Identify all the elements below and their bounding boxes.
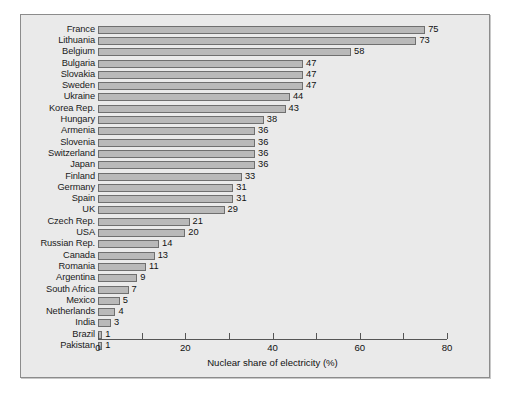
bar-row: Russian Rep.14	[21, 239, 489, 250]
bar	[98, 105, 286, 113]
bar-value-label: 44	[293, 93, 303, 102]
bar-value-label: 43	[289, 104, 299, 113]
category-label: Bulgaria	[62, 59, 95, 68]
bar-value-label: 5	[123, 296, 128, 305]
bar-value-label: 29	[228, 206, 238, 215]
x-tick-label: 40	[267, 342, 278, 353]
category-label: Mexico	[66, 296, 95, 305]
bar	[98, 150, 255, 158]
bar-value-label: 38	[267, 115, 277, 124]
bar-row: Slovakia47	[21, 69, 489, 80]
category-label: Czech Rep.	[47, 217, 95, 226]
bar-value-label: 47	[306, 59, 316, 68]
category-label: Finland	[65, 172, 95, 181]
x-tick-label: 80	[442, 342, 453, 353]
category-label: Armenia	[61, 127, 95, 136]
bar	[98, 93, 290, 101]
x-axis-line	[98, 339, 447, 340]
bar	[98, 240, 159, 248]
bar-row: Romania11	[21, 261, 489, 272]
category-label: Ukraine	[64, 93, 95, 102]
bar-value-label: 47	[306, 81, 316, 90]
x-tick-major	[185, 333, 186, 339]
bar-row: Germany31	[21, 182, 489, 193]
bar-value-label: 36	[258, 138, 268, 147]
bar	[98, 116, 264, 124]
bar	[98, 229, 185, 237]
bar	[98, 173, 242, 181]
bar-row: USA20	[21, 227, 489, 238]
category-label: UK	[82, 206, 95, 215]
bar	[98, 161, 255, 169]
bar	[98, 206, 225, 214]
category-label: Slovakia	[61, 70, 95, 79]
bar-row: Czech Rep.21	[21, 216, 489, 227]
bar-value-label: 13	[158, 251, 168, 260]
category-label: Japan	[70, 161, 95, 170]
bar	[98, 139, 255, 147]
x-tick-minor	[316, 333, 317, 339]
bar-row: Sweden47	[21, 81, 489, 92]
category-label: Russian Rep.	[40, 240, 95, 249]
bar	[98, 37, 416, 45]
bar	[98, 263, 146, 271]
x-tick-minor	[142, 333, 143, 339]
bar-row: Switzerland36	[21, 148, 489, 159]
bar-row: Mexico5	[21, 295, 489, 306]
x-tick-label: 60	[354, 342, 365, 353]
bar	[98, 297, 120, 305]
bar	[98, 274, 137, 282]
bar-value-label: 36	[258, 127, 268, 136]
bar	[98, 195, 233, 203]
bar-value-label: 7	[132, 285, 137, 294]
bar-value-label: 33	[245, 172, 255, 181]
bar	[98, 286, 129, 294]
category-label: Lithuania	[58, 36, 95, 45]
category-label: France	[67, 25, 95, 34]
bar-value-label: 14	[162, 240, 172, 249]
category-label: Pakistan	[60, 341, 95, 350]
bar-value-label: 73	[419, 36, 429, 45]
bar	[98, 218, 190, 226]
bar-value-label: 9	[140, 274, 145, 283]
bar-value-label: 47	[306, 70, 316, 79]
bar-row: Korea Rep.43	[21, 103, 489, 114]
x-tick-minor	[229, 333, 230, 339]
category-label: Canada	[63, 251, 95, 260]
category-label: USA	[76, 228, 95, 237]
x-tick-minor	[403, 333, 404, 339]
bar-row: Armenia36	[21, 126, 489, 137]
category-label: Switzerland	[48, 149, 95, 158]
bar-row: Pakistan1	[21, 340, 489, 351]
category-label: Argentina	[56, 274, 95, 283]
bar	[98, 26, 425, 34]
bar	[98, 127, 255, 135]
bar-row: Slovenia36	[21, 137, 489, 148]
category-label: Spain	[72, 194, 95, 203]
category-label: Netherlands	[46, 307, 95, 316]
x-tick-major	[273, 333, 274, 339]
category-label: Germany	[57, 183, 95, 192]
category-label: Hungary	[61, 115, 95, 124]
bar-value-label: 36	[258, 161, 268, 170]
bar-row: Belgium58	[21, 47, 489, 58]
bar-value-label: 20	[188, 228, 198, 237]
bar-row: Japan36	[21, 160, 489, 171]
category-label: Brazil	[72, 330, 95, 339]
bar-value-label: 1	[105, 330, 110, 339]
x-tick-major	[360, 333, 361, 339]
bar-row: Finland33	[21, 171, 489, 182]
category-label: Romania	[58, 262, 95, 271]
bar-chart-plot-area: France75Lithuania73Belgium58Bulgaria47Sl…	[21, 15, 489, 377]
category-label: Belgium	[62, 48, 95, 57]
bar-row: Bulgaria47	[21, 58, 489, 69]
bar-value-label: 36	[258, 149, 268, 158]
bar	[98, 60, 303, 68]
bar-row: Lithuania73	[21, 35, 489, 46]
x-tick-label: 20	[180, 342, 191, 353]
bar	[98, 252, 155, 260]
bar-value-label: 31	[236, 183, 246, 192]
bar-row: France75	[21, 24, 489, 35]
bar	[98, 82, 303, 90]
x-tick-label: 0	[95, 342, 100, 353]
